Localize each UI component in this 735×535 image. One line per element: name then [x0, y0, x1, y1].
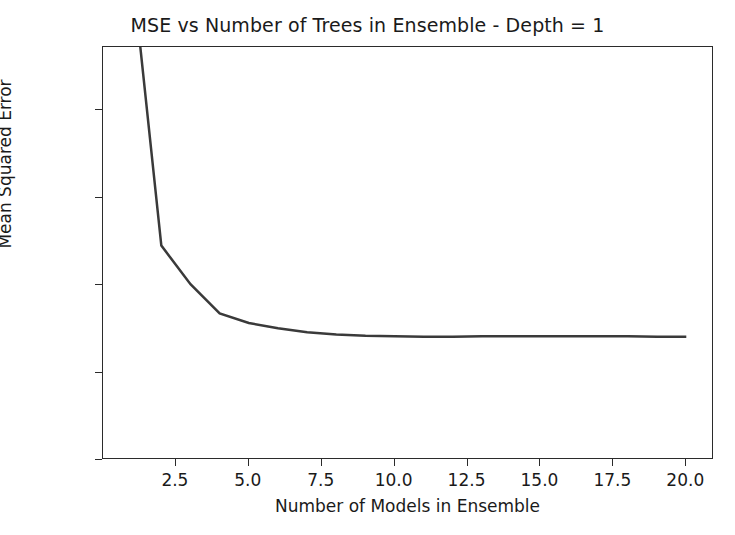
y-tick-mark: [95, 109, 102, 110]
chart-figure: MSE vs Number of Trees in Ensemble - Dep…: [0, 0, 735, 535]
x-tick-mark: [612, 459, 613, 466]
x-tick-mark: [467, 459, 468, 466]
x-tick-mark: [539, 459, 540, 466]
x-tick-mark: [394, 459, 395, 466]
plot-area: [102, 46, 713, 459]
y-axis-label: Mean Squared Error: [0, 64, 15, 264]
mse-series-line: [132, 47, 686, 337]
y-tick-mark: [95, 459, 102, 460]
series-plot: [103, 47, 713, 459]
x-tick-mark: [175, 459, 176, 466]
x-tick-label: 20.0: [640, 470, 730, 490]
y-tick-mark: [95, 197, 102, 198]
x-axis-label: Number of Models in Ensemble: [102, 496, 713, 516]
x-tick-mark: [248, 459, 249, 466]
y-tick-mark: [95, 372, 102, 373]
x-tick-mark: [685, 459, 686, 466]
x-tick-mark: [321, 459, 322, 466]
y-tick-mark: [95, 284, 102, 285]
chart-title: MSE vs Number of Trees in Ensemble - Dep…: [0, 14, 735, 36]
